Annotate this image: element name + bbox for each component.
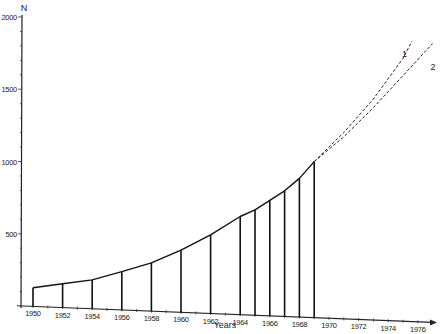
y-tick-label: 500: [5, 230, 17, 239]
vertical-drop-lines: [33, 162, 314, 318]
axes: [17, 15, 437, 325]
y-tick-label: 1500: [2, 85, 18, 94]
x-tick-label: 1968: [292, 320, 308, 329]
x-tick-label: 1956: [114, 313, 130, 322]
x-tick-label: 1958: [144, 314, 160, 323]
x-tick-label: 1950: [25, 309, 41, 318]
growth-chart: 500100015002000N195019521954195619581960…: [0, 0, 441, 334]
series-label-1: 1: [402, 49, 407, 59]
extrapolation-1: [314, 41, 412, 161]
x-tick-label: 1972: [351, 322, 367, 331]
x-tick-label: 1974: [380, 324, 396, 333]
observed-curve: [33, 162, 314, 288]
x-tick-label: 1960: [173, 315, 189, 324]
x-tick-label: 1952: [55, 311, 71, 320]
x-axis-arrow-icon: [430, 319, 437, 325]
x-tick-label: 1954: [84, 312, 100, 321]
series-label-2: 2: [431, 62, 436, 72]
series-lines: [33, 41, 433, 287]
x-axis-title: Years: [214, 320, 237, 330]
x-tick-label: 1976: [410, 325, 426, 334]
y-tick-label: 2000: [2, 13, 18, 22]
x-tick-label: 1966: [262, 319, 278, 328]
y-tick-label: 1000: [2, 158, 18, 167]
y-axis-title: N: [21, 3, 28, 13]
axis-labels: 500100015002000N195019521954195619581960…: [2, 3, 436, 334]
x-tick-label: 1970: [321, 321, 337, 330]
